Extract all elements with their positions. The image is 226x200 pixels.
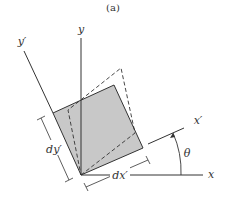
stress-element-diagram: (a) y y′ x x′ θ dy′ dx′	[0, 0, 226, 200]
y-prime-axis	[24, 51, 53, 113]
theta-arc	[173, 133, 181, 175]
x-prime-label: x′	[194, 114, 203, 127]
dy-prime-label: dy′	[46, 143, 62, 156]
y-label: y	[77, 23, 85, 36]
theta-label: θ	[184, 147, 191, 160]
caption: (a)	[106, 2, 120, 13]
dx-prime-label: dx′	[112, 169, 128, 182]
y-prime-label: y′	[17, 35, 27, 48]
x-prime-axis	[148, 128, 184, 144]
x-label: x	[208, 168, 215, 181]
